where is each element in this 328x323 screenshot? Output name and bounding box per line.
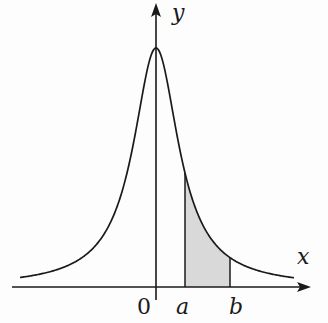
shaded-area-a-to-b bbox=[185, 173, 230, 287]
curve-plot: y x 0 a b bbox=[0, 0, 328, 323]
y-axis-label: y bbox=[171, 0, 185, 25]
x-axis-label: x bbox=[297, 244, 310, 269]
b-label: b bbox=[229, 294, 243, 319]
diagram-canvas: y x 0 a b bbox=[0, 0, 328, 323]
origin-label: 0 bbox=[137, 294, 151, 319]
density-curve bbox=[20, 48, 294, 278]
a-label: a bbox=[176, 294, 189, 319]
